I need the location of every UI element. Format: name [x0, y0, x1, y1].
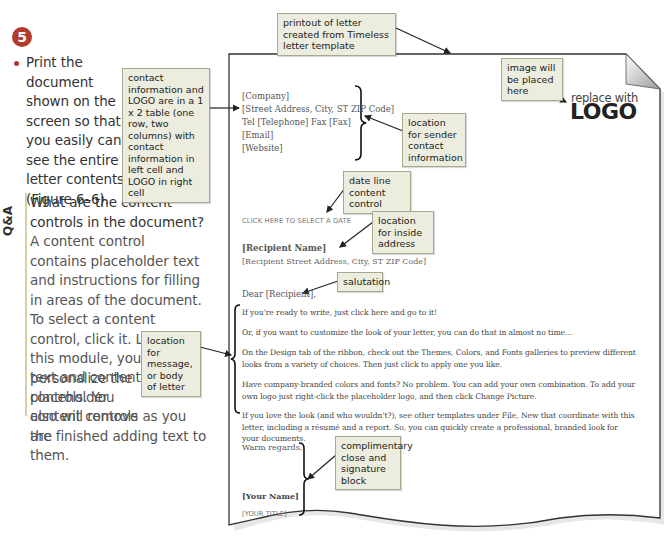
logo-placeholder: LOGO: [570, 99, 637, 124]
page-fold-icon: [626, 54, 660, 89]
sender-company: [Company]: [242, 90, 394, 103]
salutation: Dear [Recipient],: [242, 289, 316, 299]
callout-sender: location for sender contact information: [402, 113, 466, 167]
signature-name: [Your Name]: [242, 491, 299, 501]
sender-address: [Street Address, City, ST ZIP Code]: [242, 103, 394, 116]
complimentary-close: Warm regards,: [242, 443, 302, 452]
callout-date: date line content control: [343, 171, 411, 214]
body-paragraph: Have company-branded colors and fonts? N…: [242, 379, 637, 402]
callout-printout: printout of letter created from Timeless…: [277, 13, 396, 56]
sender-email: [Email]: [242, 129, 394, 142]
letter-paper-graphic: [0, 0, 664, 547]
body-paragraph: If you're ready to write, just click her…: [242, 307, 637, 319]
body-paragraph: If you love the look (and who wouldn't?)…: [242, 410, 637, 445]
callout-inside-address: location for inside address: [372, 211, 434, 254]
signature-title: [YOUR TITLE]: [242, 510, 287, 518]
sender-website: [Website]: [242, 142, 394, 155]
recipient-address: [Recipient Street Address, City, ST ZIP …: [242, 257, 426, 266]
sender-phone-fax: Tel [Telephone] Fax [Fax]: [242, 116, 394, 129]
callout-image: image will be placed here: [501, 58, 563, 101]
body-paragraph: On the Design tab of the ribbon, check o…: [242, 347, 637, 370]
body-paragraph: Or, if you want to customize the look of…: [242, 327, 637, 339]
recipient-name: [Recipient Name]: [242, 243, 326, 253]
callout-table: contact information and LOGO are in a 1 …: [122, 68, 210, 203]
date-content-control: CLICK HERE TO SELECT A DATE: [242, 217, 351, 225]
callout-body: location for message, or body of letter: [141, 331, 201, 397]
callout-salutation: salutation: [337, 272, 383, 292]
sender-contact-block: [Company] [Street Address, City, ST ZIP …: [242, 90, 394, 155]
